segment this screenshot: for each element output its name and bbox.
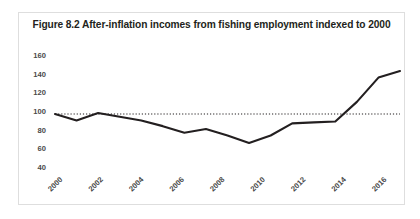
line-chart: 160 140 120 100 80 60 40 2000 2002 2004 …: [0, 0, 420, 219]
y-tick-label-140: 140: [33, 70, 46, 79]
y-tick-label-80: 80: [38, 126, 46, 135]
x-tick-label-2008: 2008: [208, 175, 226, 193]
figure-root: Figure 8.2 After-inflation incomes from …: [0, 0, 420, 219]
y-tick-label-120: 120: [33, 88, 46, 97]
x-tick-label-2016: 2016: [370, 175, 388, 193]
x-tick-label-2000: 2000: [46, 175, 64, 193]
data-series-line: [55, 71, 400, 143]
y-tick-label-160: 160: [33, 51, 46, 60]
y-axis-ticks: 160 140 120 100 80 60 40: [33, 51, 46, 172]
x-tick-label-2014: 2014: [330, 175, 349, 194]
y-tick-label-40: 40: [38, 163, 46, 172]
y-tick-label-60: 60: [38, 144, 46, 153]
x-tick-label-2006: 2006: [168, 175, 186, 193]
x-tick-label-2004: 2004: [127, 175, 146, 194]
y-tick-label-100: 100: [33, 107, 46, 116]
x-tick-label-2002: 2002: [87, 175, 105, 193]
x-tick-label-2012: 2012: [289, 175, 307, 193]
x-tick-label-2010: 2010: [249, 175, 267, 193]
x-axis-ticks: 2000 2002 2004 2006 2008 2010 2012 2014 …: [46, 175, 388, 194]
